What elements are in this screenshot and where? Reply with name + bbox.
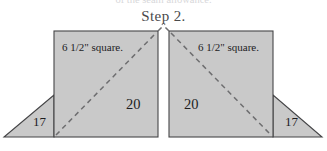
quilt-figure-stage [0, 0, 327, 151]
right-square-size-label: 6 1/2" square. [198, 41, 259, 54]
left-square-size-label: 6 1/2" square. [62, 41, 123, 54]
left-triangle-piece-number: 17 [33, 114, 46, 129]
left-square-piece-number: 20 [126, 96, 141, 112]
right-triangle-piece-number: 17 [285, 114, 298, 129]
right-square-piece-number: 20 [184, 96, 199, 112]
left-dashed-diagonal-extension [158, 24, 165, 31]
diagram-page: of the seam allowance. Step 2. 6 1/2" [0, 0, 327, 151]
left-triangle-shape [4, 95, 54, 137]
right-dashed-diagonal-extension [162, 24, 169, 31]
